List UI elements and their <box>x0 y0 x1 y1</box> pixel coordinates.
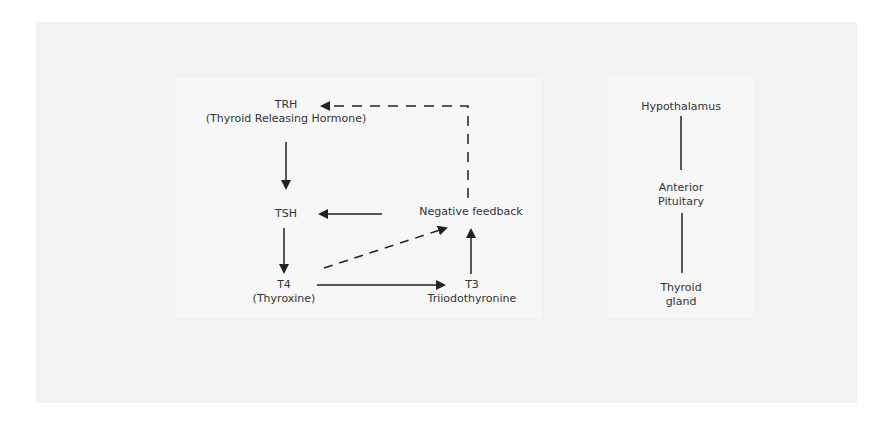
anterior-pituitary-line2: Pituitary <box>626 195 736 209</box>
node-hypothalamus: Hypothalamus <box>626 100 736 114</box>
anterior-pituitary-line1: Anterior <box>626 181 736 195</box>
node-thyroid-gland: Thyroid gland <box>626 281 736 309</box>
trh-subtitle: (Thyroid Releasing Hormone) <box>196 112 376 126</box>
node-tsh: TSH <box>256 207 316 221</box>
node-negative-feedback: Negative feedback <box>398 205 544 219</box>
t4-subtitle: (Thyroxine) <box>234 292 334 306</box>
node-t3: T3 Triiodothyronine <box>412 278 532 306</box>
hypothalamus-label: Hypothalamus <box>626 100 736 114</box>
tsh-title: TSH <box>256 207 316 221</box>
t3-title: T3 <box>412 278 532 292</box>
negative-feedback-title: Negative feedback <box>398 205 544 219</box>
trh-title: TRH <box>196 98 376 112</box>
t4-title: T4 <box>234 278 334 292</box>
t3-subtitle: Triiodothyronine <box>412 292 532 306</box>
node-trh: TRH (Thyroid Releasing Hormone) <box>196 98 376 126</box>
arrow-t4-to-feedback-dashed <box>324 228 446 268</box>
thyroid-gland-line2: gland <box>626 295 736 309</box>
node-anterior-pituitary: Anterior Pituitary <box>626 181 736 209</box>
thyroid-gland-line1: Thyroid <box>626 281 736 295</box>
node-t4: T4 (Thyroxine) <box>234 278 334 306</box>
